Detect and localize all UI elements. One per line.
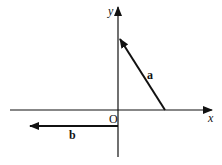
vector-diagram: y x O a b bbox=[0, 0, 222, 165]
vector-a-label: a bbox=[147, 68, 153, 82]
vector-a bbox=[120, 39, 165, 110]
vector-b-label: b bbox=[69, 128, 76, 142]
x-axis-label: x bbox=[207, 111, 214, 125]
y-axis-label: y bbox=[107, 4, 114, 18]
origin-label: O bbox=[109, 112, 118, 126]
